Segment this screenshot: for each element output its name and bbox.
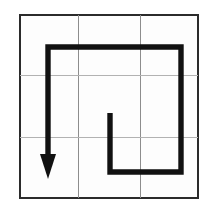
figure-canvas [0,0,218,211]
grid-path-figure [0,0,218,211]
